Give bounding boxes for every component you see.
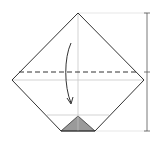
- fold-arrow-icon: [66, 43, 71, 103]
- origami-diagram: Origami fold step: fold top corner down …: [0, 0, 156, 146]
- diagram-canvas: [0, 0, 156, 146]
